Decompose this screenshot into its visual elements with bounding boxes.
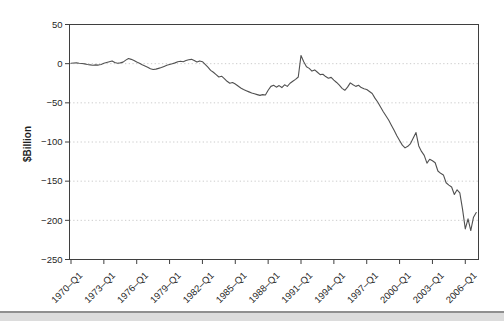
y-axis-title: $Billion	[22, 126, 33, 162]
series-line	[71, 55, 476, 230]
y-axis-tick-labels: 500−50−100−150−200−250	[41, 19, 62, 265]
x-tick-label: 1994–Q1	[312, 270, 347, 305]
x-tick-label: 1985–Q1	[213, 270, 248, 305]
gridlines	[70, 64, 479, 221]
chart-svg: 500−50−100−150−200−250 1970–Q11973–Q1197…	[0, 0, 504, 321]
x-tick-label: 1982–Q1	[180, 270, 215, 305]
x-tick-label: 1976–Q1	[115, 270, 150, 305]
screenshot-root: 500−50−100−150−200−250 1970–Q11973–Q1197…	[0, 0, 504, 321]
x-tick-label: 1973–Q1	[82, 270, 117, 305]
x-tick-label: 2003–Q1	[410, 270, 445, 305]
x-tick-label: 1997–Q1	[345, 270, 380, 305]
x-tick-label: 1979–Q1	[148, 270, 183, 305]
y-tick-label: 0	[57, 58, 62, 69]
y-tick-label: −250	[41, 254, 62, 265]
x-axis-tick-labels: 1970–Q11973–Q11976–Q11979–Q11982–Q11985–…	[49, 270, 479, 305]
page-divider-bar	[0, 311, 504, 321]
y-tick-label: −200	[41, 215, 62, 226]
y-tick-label: −100	[41, 136, 62, 147]
x-tick-label: 2000–Q1	[378, 270, 413, 305]
x-tick-label: 2006–Q1	[443, 270, 478, 305]
x-tick-label: 1970–Q1	[49, 270, 84, 305]
balance-line	[71, 55, 476, 230]
x-tick-label: 1991–Q1	[279, 270, 314, 305]
y-tick-label: −150	[41, 175, 62, 186]
x-tick-label: 1988–Q1	[246, 270, 281, 305]
y-tick-label: 50	[52, 19, 63, 30]
y-tick-label: −50	[46, 97, 62, 108]
